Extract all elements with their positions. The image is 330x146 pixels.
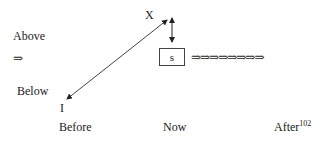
label-x: X: [145, 8, 154, 22]
implies-arrow: ⇒: [13, 51, 23, 65]
footnote-ref: 102: [299, 119, 311, 128]
box-s: s: [159, 48, 185, 66]
label-now: Now: [163, 120, 186, 134]
label-i: I: [60, 101, 64, 115]
label-after-text: After: [274, 120, 299, 134]
diagonal-arrow: [67, 20, 167, 99]
label-below: Below: [17, 84, 48, 98]
label-before: Before: [59, 120, 92, 134]
label-after: After102: [274, 120, 311, 134]
label-above: Above: [13, 29, 45, 43]
arrow-chain: ⇒⇒⇒⇒⇒⇒⇒⇒: [191, 50, 263, 64]
